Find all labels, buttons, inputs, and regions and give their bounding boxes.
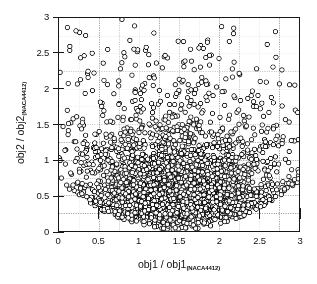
x-tick-label: 0.5 [83, 236, 113, 246]
y-tick-label: 1 [23, 155, 49, 165]
x-tick-mark [300, 208, 301, 219]
x-axis-title-main: obj1 / obj1 [138, 258, 186, 270]
scatter-figure: 00.511.522.53 00.511.522.53 obj1 / obj1(… [0, 0, 317, 284]
y-tick-mark [53, 52, 64, 53]
y-tick-mark [53, 17, 64, 18]
y-tick-label: 3 [23, 12, 49, 22]
y-tick-label: 0.5 [23, 191, 49, 201]
x-tick-label: 0 [43, 236, 73, 246]
x-tick-label: 3 [285, 236, 315, 246]
x-tick-label: 1 [124, 236, 154, 246]
x-axis-title-subscript: (NACA4412) [186, 265, 220, 271]
y-tick-label: 2.5 [23, 48, 49, 58]
y-tick-mark [53, 88, 64, 89]
x-tick-label: 1.5 [164, 236, 194, 246]
y-axis-title: obj2 / obj2(NACA4412) [14, 16, 26, 231]
x-tick-mark [179, 208, 180, 219]
y-tick-mark [53, 232, 64, 233]
x-axis-title: obj1 / obj1(NACA4412) [58, 258, 300, 270]
x-tick-label: 2.5 [245, 236, 275, 246]
y-axis-title-subscript: (NACA4412) [21, 82, 27, 116]
x-tick-mark [219, 208, 220, 219]
x-tick-mark [138, 208, 139, 219]
y-tick-mark [53, 196, 64, 197]
y-tick-mark [53, 160, 64, 161]
x-tick-label: 2 [204, 236, 234, 246]
y-tick-label: 0 [23, 227, 49, 237]
x-tick-mark [98, 208, 99, 219]
y-tick-label: 2 [23, 84, 49, 94]
y-tick-label: 1.5 [23, 120, 49, 130]
x-tick-mark [259, 208, 260, 219]
plot-area [58, 17, 300, 232]
x-tick-mark [58, 208, 59, 219]
y-tick-mark [53, 124, 64, 125]
scatter-points-layer [59, 18, 299, 231]
y-axis-title-main: obj2 / obj2 [14, 116, 26, 164]
